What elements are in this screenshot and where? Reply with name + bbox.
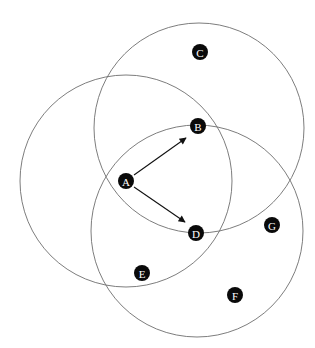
node-a: A — [118, 173, 134, 189]
node-label: C — [196, 47, 203, 59]
node-label: D — [192, 228, 200, 240]
transmission-ranges — [20, 23, 304, 337]
arrows — [134, 138, 186, 222]
node-label: G — [268, 220, 276, 232]
node-g: G — [264, 217, 280, 233]
network-diagram: ABCDEFG — [0, 0, 315, 348]
arrow-a-to-b — [134, 138, 186, 175]
node-label: A — [122, 176, 130, 188]
node-e: E — [134, 265, 150, 281]
node-b: B — [190, 118, 206, 134]
node-c: C — [192, 44, 208, 60]
node-label: F — [232, 290, 238, 302]
node-label: B — [194, 121, 201, 133]
arrow-a-to-d — [134, 187, 185, 222]
node-label: E — [139, 268, 146, 280]
node-f: F — [227, 287, 243, 303]
node-d: D — [188, 225, 204, 241]
nodes: ABCDEFG — [118, 44, 280, 303]
